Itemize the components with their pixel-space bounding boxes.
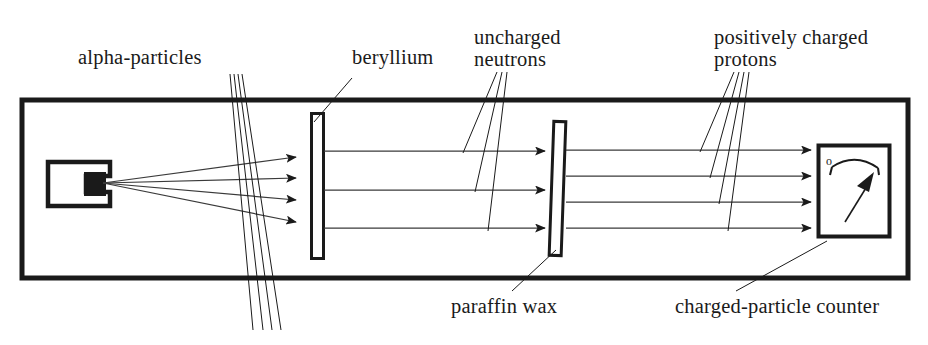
beryllium-plate <box>312 114 324 259</box>
meter-scale-tick-right <box>878 168 879 175</box>
alpha-source-pellet <box>84 172 106 196</box>
alpha-source-holder <box>48 162 110 206</box>
leader-charged-particle-counter <box>736 241 827 291</box>
paraffin-wax-plate <box>549 121 566 255</box>
label-alpha-particles: alpha-particles <box>78 46 202 68</box>
label-paraffin-wax: paraffin wax <box>451 295 557 317</box>
leader-alpha-particles <box>230 74 281 330</box>
label-positively-charged-protons: positively charged protons <box>714 26 868 70</box>
neutron-rays <box>324 151 545 228</box>
meter-zero-label: o <box>826 154 832 168</box>
label-uncharged-neutrons: uncharged neutrons <box>474 26 561 70</box>
label-charged-particle-counter: charged-particle counter <box>675 295 879 317</box>
leader-protons <box>700 72 749 231</box>
neutron-apparatus-figure: o <box>0 0 928 345</box>
label-beryllium: beryllium <box>352 46 434 68</box>
alpha-particle-rays <box>103 157 296 222</box>
leader-paraffin-wax <box>512 250 556 291</box>
charged-particle-counter[interactable]: o <box>819 146 890 237</box>
enclosure-chamber <box>22 100 908 278</box>
proton-rays <box>566 150 811 228</box>
